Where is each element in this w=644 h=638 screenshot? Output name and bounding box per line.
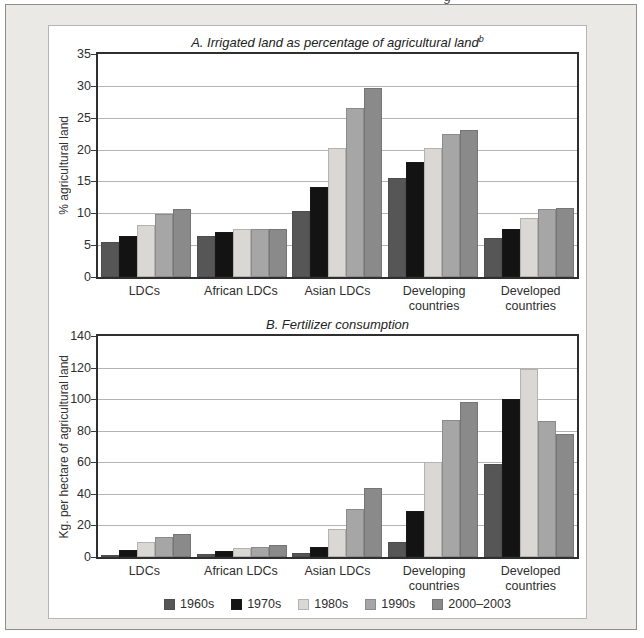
bar (364, 88, 382, 277)
y-tick-label: 100 (49, 392, 91, 406)
bar (173, 534, 191, 557)
plot-area (96, 52, 579, 279)
chart-a-title: A. Irrigated land as percentage of agric… (96, 34, 579, 50)
bar (538, 421, 556, 557)
y-tick-mark (91, 277, 96, 278)
figure-panel: A. Irrigated land as percentage of agric… (5, 4, 637, 630)
bar (364, 488, 382, 557)
y-tick-mark (91, 494, 96, 495)
y-tick-mark (91, 431, 96, 432)
category-label: Asian LDCs (283, 284, 393, 299)
y-tick-label: 5 (49, 238, 91, 252)
category-label: Developed countries (476, 564, 586, 594)
category-label: Asian LDCs (283, 564, 393, 579)
category-label: LDCs (89, 564, 199, 579)
y-tick-mark (91, 368, 96, 369)
bar (101, 242, 119, 277)
bar-cluster (290, 488, 386, 557)
legend-label: 1970s (247, 597, 281, 611)
bar (484, 464, 502, 557)
legend-item: 1970s (231, 597, 281, 611)
bar (328, 148, 346, 277)
bar (460, 130, 478, 277)
y-tick-label: 120 (49, 361, 91, 375)
bar (556, 208, 574, 277)
bar (406, 511, 424, 557)
bar (424, 148, 442, 277)
y-tick-mark (91, 557, 96, 558)
bar (520, 369, 538, 557)
bar (269, 545, 287, 557)
category-label: Developing countries (379, 564, 489, 594)
y-tick-mark (91, 150, 96, 151)
y-tick-label: 25 (49, 111, 91, 125)
bar (251, 229, 269, 277)
bar-cluster (290, 88, 386, 277)
chart-a-title-text: A. Irrigated land as percentage of agric… (191, 35, 479, 50)
y-tick-mark (91, 336, 96, 337)
y-tick-label: 10 (49, 206, 91, 220)
y-tick-label: 60 (49, 455, 91, 469)
y-tick-label: 0 (49, 550, 91, 564)
legend-swatch (432, 599, 443, 610)
gridline (98, 86, 577, 87)
bar (346, 509, 364, 557)
bar (197, 236, 215, 277)
y-tick-label: 30 (49, 79, 91, 93)
bar (502, 399, 520, 557)
bar-cluster (194, 229, 290, 277)
bar (119, 550, 137, 557)
y-tick-mark (91, 525, 96, 526)
legend-swatch (164, 599, 175, 610)
legend-label: 1980s (314, 597, 348, 611)
chart-irrigated-land: A. Irrigated land as percentage of agric… (49, 26, 586, 310)
bar (197, 554, 215, 557)
legend-swatch (231, 599, 242, 610)
bar (292, 553, 310, 557)
bar (442, 134, 460, 277)
bar (424, 462, 442, 557)
chart-fertilizer: B. Fertilizer consumption Kg. per hectar… (49, 310, 586, 598)
legend-swatch (365, 599, 376, 610)
bar (155, 214, 173, 277)
bar (269, 229, 287, 277)
bar (119, 236, 137, 277)
bar (233, 548, 251, 557)
bar (460, 402, 478, 557)
y-tick-label: 15 (49, 174, 91, 188)
category-label: African LDCs (186, 284, 296, 299)
chart-card: A. Irrigated land as percentage of agric… (48, 25, 587, 619)
y-tick-mark (91, 118, 96, 119)
legend-item: 1990s (365, 597, 415, 611)
legend-item: 1980s (298, 597, 348, 611)
bar (406, 162, 424, 277)
y-tick-mark (91, 86, 96, 87)
bar (215, 232, 233, 277)
bar-cluster (98, 534, 194, 557)
legend-item: 1960s (164, 597, 214, 611)
bar (484, 238, 502, 277)
chart-b-title: B. Fertilizer consumption (96, 316, 579, 332)
y-tick-label: 20 (49, 518, 91, 532)
bar (328, 529, 346, 557)
y-tick-mark (91, 213, 96, 214)
y-tick-mark (91, 462, 96, 463)
bar (310, 187, 328, 277)
legend: 1960s1970s1980s1990s2000–2003 (96, 597, 579, 611)
bar (233, 229, 251, 277)
plot-area (96, 334, 579, 559)
chart-a-title-footnote: b (479, 34, 484, 44)
bar (173, 209, 191, 277)
legend-label: 2000–2003 (448, 597, 511, 611)
bar (502, 229, 520, 277)
bar (310, 547, 328, 557)
bar (137, 225, 155, 277)
category-label: LDCs (89, 284, 199, 299)
chart-b-title-text: B. Fertilizer consumption (266, 317, 409, 332)
chart-b-ytick-column: 020406080100120140 (49, 336, 91, 557)
y-tick-mark (91, 245, 96, 246)
y-tick-label: 20 (49, 143, 91, 157)
legend-item: 2000–2003 (432, 597, 511, 611)
bar (388, 178, 406, 277)
y-tick-label: 80 (49, 424, 91, 438)
